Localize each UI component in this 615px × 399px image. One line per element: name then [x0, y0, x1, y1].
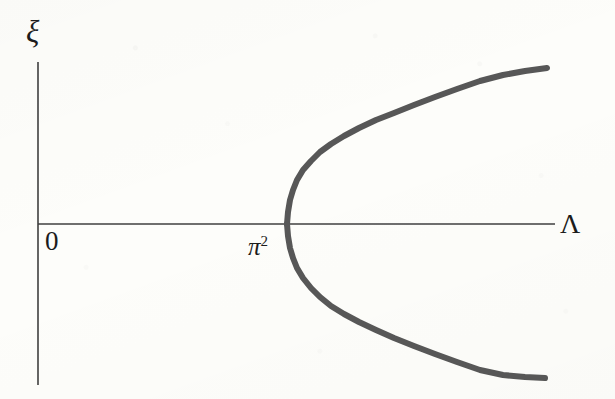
- bifurcation-point-label: π2: [248, 234, 268, 259]
- plot-canvas: [0, 0, 615, 399]
- bifurcation-diagram-figure: ξ Λ 0 π2: [0, 0, 615, 399]
- axes-group: [38, 62, 555, 385]
- curve-upper-branch: [287, 68, 547, 224]
- y-axis-label: ξ: [26, 16, 39, 47]
- origin-label: 0: [45, 228, 59, 255]
- bifurcation-point-label-exponent: 2: [261, 233, 269, 249]
- bifurcation-curve-group: [287, 68, 547, 378]
- curve-lower-branch: [287, 224, 545, 378]
- bifurcation-point-label-base: π: [248, 233, 261, 260]
- x-axis-label: Λ: [560, 210, 580, 238]
